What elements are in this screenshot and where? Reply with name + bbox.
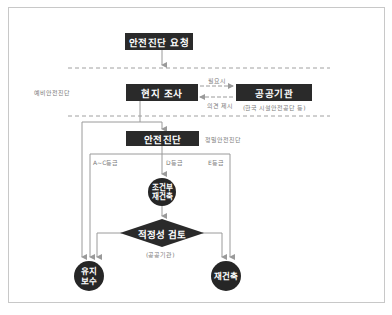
arrow-review-to-rebuild xyxy=(202,233,222,257)
safety-diagnosis-node: 안전진단 xyxy=(126,131,199,146)
safety-diagnosis-request-node: 안전진단 요청 xyxy=(125,33,193,50)
adequacy-review-note: (공공기관) xyxy=(146,250,175,259)
arrow-survey-to-diagnosis xyxy=(140,122,162,129)
maintenance-line1: 유지 xyxy=(81,266,97,276)
grade-e-label: E등급 xyxy=(208,158,224,167)
grade-ac-label: A~C등급 xyxy=(93,158,118,167)
conditional-rebuild-node: 조건부 재건축 xyxy=(148,178,176,206)
preliminary-stage-label: 예비안전진단 xyxy=(34,88,70,97)
maintenance-line2: 보수 xyxy=(81,276,97,286)
grade-d-label: D등급 xyxy=(166,158,183,167)
site-survey-node: 현지 조사 xyxy=(126,84,198,101)
conditional-rebuild-line1: 조건부 xyxy=(152,183,173,192)
adequacy-review-label: 적정성 검토 xyxy=(138,227,186,241)
detailed-stage-label: 정밀안전진단 xyxy=(205,135,241,144)
conditional-rebuild-line2: 재건축 xyxy=(152,192,173,201)
maintenance-node: 유지 보수 xyxy=(74,261,104,291)
opinion-label: 의견 제시 xyxy=(207,101,233,110)
public-agency-note: (한국 시설안전공단 등) xyxy=(243,103,306,112)
public-agency-node: 공공기관 xyxy=(236,84,312,101)
flow-connectors xyxy=(0,0,392,315)
when-needed-label: 필요시 xyxy=(208,76,226,85)
rebuild-node: 재건축 xyxy=(211,261,241,291)
arrow-review-to-maintenance xyxy=(97,233,122,257)
